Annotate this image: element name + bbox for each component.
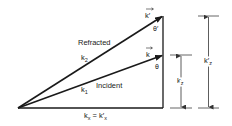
- incident-vector-arrow: [18, 56, 162, 109]
- incident-label: Incident: [96, 81, 123, 90]
- k-vector-label: k: [146, 47, 153, 59]
- kz-label: kz: [177, 76, 184, 86]
- theta-label: θ: [155, 63, 159, 70]
- svg-text:k: k: [146, 50, 150, 59]
- k-prime-vector-label: k′: [145, 8, 154, 20]
- refracted-label: Refracted: [78, 38, 111, 47]
- refracted-vector-arrow: [18, 17, 162, 109]
- svg-text:k′: k′: [145, 11, 151, 20]
- kx-equals-kx-prime-label: kx = k′x: [84, 111, 107, 121]
- theta-prime-label: θ′: [153, 25, 159, 32]
- k2-label: k2: [81, 53, 88, 63]
- kz-prime-label: k′z: [204, 56, 212, 66]
- refraction-wave-vector-diagram: Refracted Incident k2 k1 k′ θ′ k θ kx = …: [0, 0, 232, 126]
- k1-label: k1: [81, 85, 88, 95]
